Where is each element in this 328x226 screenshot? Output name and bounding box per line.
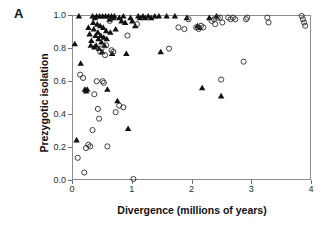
x-tick-label: 3 [241,184,261,194]
x-tick-mark [311,180,312,184]
marker-open-circle [300,17,305,22]
marker-open-circle [113,110,118,115]
y-axis-title: Prezygotic isolation [38,18,50,188]
marker-open-circle [101,80,106,85]
figure-panel-a: A Prezygotic isolation 0.00.20.40.60.81.… [0,0,328,226]
marker-filled-triangle [88,37,94,43]
marker-filled-triangle [77,60,83,66]
x-axis-title: Divergence (millions of years) [72,204,312,216]
marker-filled-triangle [72,41,78,47]
marker-filled-triangle [163,13,169,19]
marker-filled-triangle [114,98,120,104]
x-tick-mark [251,180,252,184]
marker-filled-triangle [104,86,110,92]
marker-filled-triangle [218,93,224,99]
x-tick-mark [192,180,193,184]
scatter-points-layer [73,16,310,179]
marker-filled-triangle [90,19,96,25]
marker-open-circle [241,59,246,64]
marker-open-circle [75,155,80,160]
x-tick-label: 1 [122,184,142,194]
marker-filled-triangle [123,50,129,56]
marker-filled-triangle [172,13,178,19]
marker-open-circle [96,116,101,121]
marker-filled-triangle [125,125,131,131]
marker-filled-triangle [156,13,162,19]
marker-open-circle [105,144,110,149]
marker-open-circle [219,77,224,82]
x-tick-label: 2 [182,184,202,194]
marker-open-circle [125,33,130,38]
marker-filled-triangle [85,24,91,30]
plot-area [72,15,311,180]
marker-open-circle [166,46,171,51]
marker-open-circle [176,25,181,30]
marker-filled-triangle [86,31,92,37]
x-tick-mark [72,180,73,184]
marker-open-circle [220,20,225,25]
marker-open-circle [265,15,270,20]
marker-open-circle [303,23,308,28]
marker-open-circle [245,15,250,20]
series-sympatric [75,13,308,181]
marker-open-circle [95,106,100,111]
marker-open-circle [299,13,304,18]
marker-filled-triangle [91,26,97,32]
marker-filled-triangle [157,49,163,55]
marker-open-circle [213,22,218,27]
marker-open-circle [90,128,95,133]
x-tick-label: 0 [62,184,82,194]
marker-filled-triangle [73,137,79,143]
series-allopatric [72,13,225,142]
marker-open-circle [78,72,83,77]
marker-open-circle [92,92,97,97]
marker-filled-triangle [199,85,205,91]
marker-open-circle [131,176,136,181]
marker-filled-triangle [120,13,126,19]
panel-letter: A [14,6,24,21]
marker-open-circle [80,75,85,80]
marker-open-circle [94,79,99,84]
marker-open-circle [82,170,87,175]
marker-open-circle [266,20,271,25]
marker-open-circle [301,20,306,25]
x-tick-label: 4 [301,184,321,194]
marker-filled-triangle [112,26,118,32]
y-tick-mark [68,180,72,181]
marker-open-circle [102,53,107,58]
marker-filled-triangle [76,13,82,19]
marker-open-circle [182,26,187,31]
